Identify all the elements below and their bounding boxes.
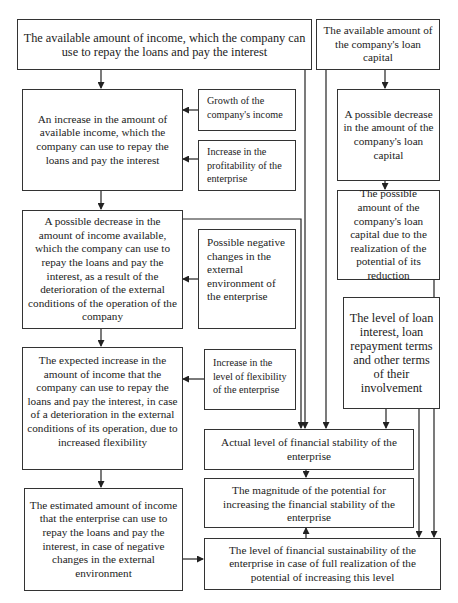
box-increase-flexibility: Increase in the level of flexibility of … <box>204 349 296 410</box>
box-label: The level of loan interest, loan repayme… <box>348 311 435 395</box>
box-label: Possible negative changes in the externa… <box>207 236 287 304</box>
box-sustainability-level: The level of financial sustainability of… <box>204 538 441 590</box>
box-label: The magnitude of the potential for incre… <box>209 484 409 525</box>
box-growth-income: Growth of the company's income <box>198 89 296 131</box>
box-label: An increase in the amount of available i… <box>27 113 178 167</box>
box-available-income: The available amount of income, which th… <box>17 19 312 70</box>
box-actual-stability: Actual level of financial stability of t… <box>204 429 414 470</box>
box-label: The possible amount of the company's loa… <box>342 187 435 282</box>
box-negative-changes: Possible negative changes in the externa… <box>198 229 296 329</box>
box-estimated-amount: The estimated amount of income that the … <box>24 488 183 591</box>
box-loan-interest-level: The level of loan interest, loan repayme… <box>343 297 440 409</box>
box-label: The available amount of the company's lo… <box>321 24 435 65</box>
box-increase-profitability: Increase in the profitability of the ent… <box>198 140 296 191</box>
box-label: Growth of the company's income <box>207 94 287 121</box>
box-possible-loan-capital: The possible amount of the company's loa… <box>337 190 440 280</box>
box-decrease-income: A possible decrease in the amount of inc… <box>22 210 183 329</box>
box-label: Increase in the level of flexibility of … <box>213 356 287 397</box>
box-label: A possible decrease in the amount of inc… <box>27 215 178 324</box>
box-potential-magnitude: The magnitude of the potential for incre… <box>204 478 414 528</box>
box-label: Increase in the profitability of the ent… <box>207 145 287 186</box>
box-increase-available-income: An increase in the amount of available i… <box>22 89 183 191</box>
box-decrease-loan-capital: A possible decrease in the amount of the… <box>337 89 440 181</box>
box-label: The expected increase in the amount of i… <box>27 354 178 449</box>
box-label: Actual level of financial stability of t… <box>209 436 409 463</box>
box-label: The level of financial sustainability of… <box>209 544 436 585</box>
box-available-loan-capital: The available amount of the company's lo… <box>316 19 440 70</box>
box-label: The available amount of income, which th… <box>22 31 307 59</box>
box-label: A possible decrease in the amount of the… <box>342 108 435 162</box>
box-label: The estimated amount of income that the … <box>29 499 178 581</box>
box-expected-increase: The expected increase in the amount of i… <box>22 347 183 470</box>
